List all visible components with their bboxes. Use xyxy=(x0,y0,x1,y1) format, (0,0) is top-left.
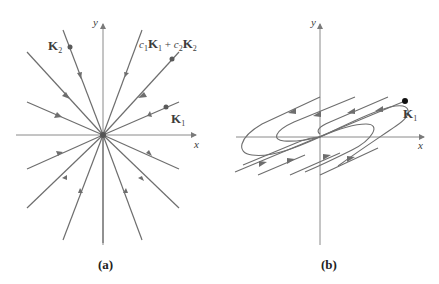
k1-dot-a xyxy=(164,105,169,110)
y-axis-label-b: y xyxy=(311,17,316,28)
figure: y x K2 K1 c1K1 + c2K2 (a) y x K1 (b) xyxy=(0,0,439,284)
k2-dot xyxy=(68,45,73,50)
phase-portraits-svg xyxy=(0,0,439,284)
label-combination: c1K1 + c2K2 xyxy=(139,37,197,53)
combo-dot xyxy=(170,57,175,62)
label-k2: K2 xyxy=(48,37,62,55)
k1-dot-b xyxy=(402,98,408,104)
x-axis-label-a: x xyxy=(194,139,199,150)
y-axis-label-a: y xyxy=(93,17,98,28)
origin-dot-a xyxy=(100,132,106,138)
panel-b xyxy=(235,24,424,245)
panel-a xyxy=(16,24,196,245)
caption-a: (a) xyxy=(98,258,113,271)
label-k1-b: K1 xyxy=(403,105,417,123)
x-axis-label-b: x xyxy=(418,140,423,151)
label-k1-a: K1 xyxy=(171,110,185,128)
caption-b: (b) xyxy=(321,258,337,271)
